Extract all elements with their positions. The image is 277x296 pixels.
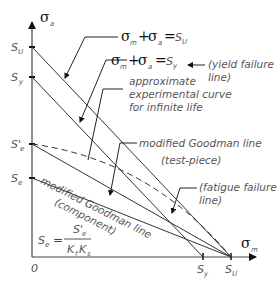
leader-fatigue xyxy=(172,188,197,213)
svg-text:m: m xyxy=(130,39,137,47)
svg-text:U: U xyxy=(182,38,187,46)
label-se: S xyxy=(11,172,18,185)
svg-text:e: e xyxy=(45,241,49,249)
leader-goodman-test xyxy=(110,143,137,195)
svg-text:a: a xyxy=(148,63,152,71)
se-formula: S e = S' e K f K s xyxy=(38,223,91,258)
svg-text:S: S xyxy=(166,55,173,68)
label-sy-x: S xyxy=(197,263,204,276)
svg-text:s: s xyxy=(87,250,91,258)
goodman-test-label: modified Goodman line xyxy=(139,137,262,149)
svg-text:(test-piece): (test-piece) xyxy=(161,154,221,166)
equation-ultimate: σ m + σ a = S U xyxy=(121,28,187,47)
svg-text:for infinite life: for infinite life xyxy=(129,101,203,113)
svg-text:m: m xyxy=(120,63,127,71)
svg-text:y: y xyxy=(172,62,178,70)
svg-text:σ: σ xyxy=(148,28,158,44)
svg-text:e: e xyxy=(18,179,22,187)
origin-label: 0 xyxy=(31,262,38,275)
svg-text:U: U xyxy=(232,270,237,278)
svg-text:K: K xyxy=(79,243,87,256)
svg-text:U: U xyxy=(18,48,23,56)
svg-text:y: y xyxy=(18,78,24,86)
svg-text:=: = xyxy=(155,52,167,68)
curve-label: approximate xyxy=(129,75,196,87)
svg-text:=: = xyxy=(164,28,176,44)
x-axis-symbol: σ xyxy=(241,235,251,251)
svg-text:a: a xyxy=(158,39,162,47)
y-axis-symbol: σ xyxy=(40,9,50,25)
x-axis-subscript: m xyxy=(251,246,258,254)
goodman-diagram: σ a σ m 0 S U S y S' e S e S y S U σ m +… xyxy=(0,0,277,296)
svg-text:y: y xyxy=(203,270,209,278)
label-su-x: S xyxy=(225,263,232,276)
svg-text:e: e xyxy=(82,230,86,238)
label-su-y: S xyxy=(11,41,18,54)
equation-yield: σ m + σ a = S y xyxy=(111,52,178,71)
y-axis-subscript: a xyxy=(50,20,54,28)
svg-text:S: S xyxy=(38,234,45,247)
svg-text:K: K xyxy=(67,243,75,256)
label-sy-y: S xyxy=(11,71,18,84)
svg-text:e: e xyxy=(20,145,24,153)
yield-failure-label: (yield failure xyxy=(208,58,274,70)
svg-text:S: S xyxy=(175,31,182,44)
svg-text:line): line) xyxy=(208,71,231,83)
svg-text:experimental curve: experimental curve xyxy=(129,88,232,100)
svg-text:=: = xyxy=(53,233,63,247)
fatigue-failure-label: (fatigue failure xyxy=(199,181,277,193)
svg-text:σ: σ xyxy=(138,52,148,68)
svg-text:line): line) xyxy=(199,194,222,206)
